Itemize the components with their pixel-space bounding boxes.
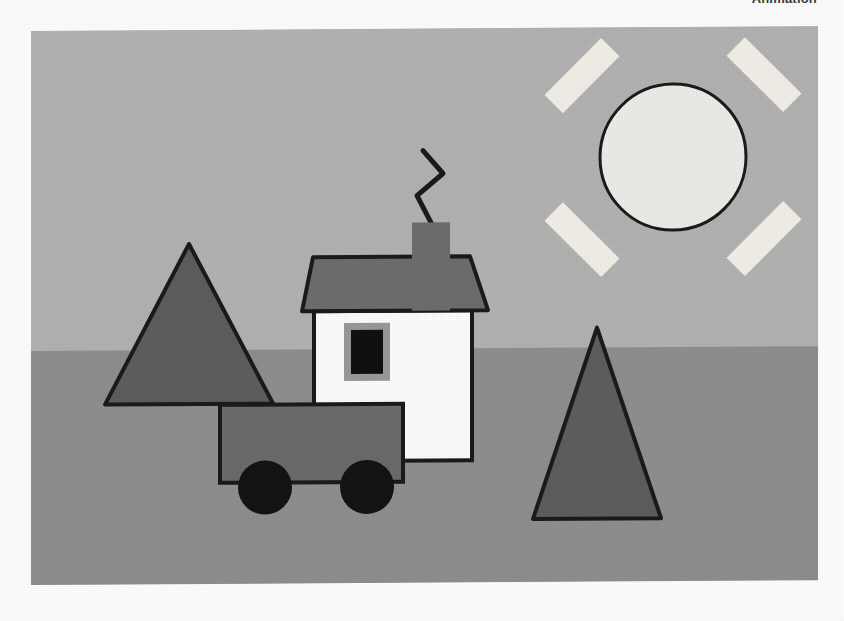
page-caption: Animation	[752, 0, 817, 6]
chimney-top-segment	[412, 222, 450, 310]
house-roof	[302, 256, 488, 311]
wheel-rear	[238, 460, 292, 514]
sun-disc	[600, 84, 746, 231]
animation-scene-figure	[31, 26, 818, 585]
wheel-front	[340, 460, 394, 514]
window-glass	[351, 330, 383, 374]
scene-canvas	[31, 26, 818, 585]
